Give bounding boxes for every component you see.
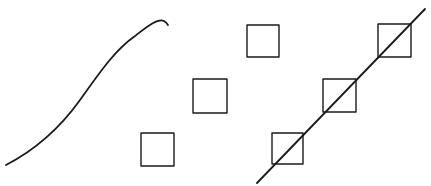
diagram-canvas xyxy=(0,0,431,186)
aligned-square-1 xyxy=(272,133,303,164)
s-curve xyxy=(6,20,168,165)
aligned-square-2 xyxy=(323,79,356,112)
square-2 xyxy=(193,79,227,113)
square-3 xyxy=(247,25,279,57)
square-1 xyxy=(141,133,174,166)
diagonal-alignment-line xyxy=(257,9,425,183)
unaligned-squares-group xyxy=(141,25,279,166)
